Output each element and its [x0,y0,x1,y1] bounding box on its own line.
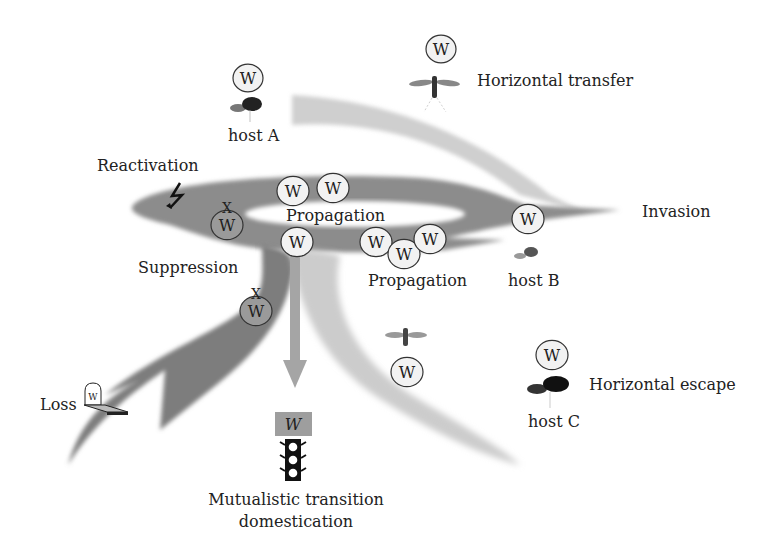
host-c-label: host C [528,414,580,430]
domestication-label: domestication [206,514,386,530]
w-symbol: W [396,245,413,264]
invasion-symbiont-bubble: W [512,204,544,233]
propagation-symbiont-1-bubble: W [360,227,392,256]
w-symbol: W [248,302,265,321]
reactivation-label: Reactivation [97,158,199,174]
transfer-symbiont-bubble: W [426,35,456,63]
invasion-label: Invasion [642,204,710,220]
w-symbol: W [285,182,302,201]
w-symbol: W [422,230,439,249]
w-symbol: W [219,216,236,235]
w-symbol: W [368,233,385,252]
host-a-symbiont-bubble: W [233,64,263,92]
loss-label: Loss [40,397,77,413]
w-symbol: W [289,233,306,252]
w-symbol: W [520,210,537,229]
escape-symbiont-bubble: W [391,357,423,386]
propagation-label-top: Propagation [286,208,385,224]
horizontal-transfer-label: Horizontal transfer [477,73,633,89]
suppressed-symbiont-bubble: WX [211,200,243,240]
suppression-label: Suppression [138,260,238,276]
mutualistic-transition-label: Mutualistic transition [206,492,386,508]
w-symbol: W [433,40,450,59]
w-symbol: W [399,363,416,382]
suppressed-branch-symbiont-bubble: WX [240,286,272,326]
wolbachia-diagram: W W [0,0,783,557]
w-symbol: W [544,346,561,365]
host-c-symbiont-bubble: W [536,340,568,369]
w-symbol: W [240,69,257,88]
suppression-x-mark: X [251,286,261,302]
ring-symbiont-2-bubble: W [317,173,349,202]
host-b-label: host B [508,273,559,289]
w-symbol: W [325,179,342,198]
propagation-symbiont-3-bubble: W [414,224,446,253]
horizontal-escape-label: Horizontal escape [589,377,736,393]
host-a-label: host A [228,128,279,144]
suppression-x-mark: X [222,200,232,216]
ring-symbiont-1-bubble: W [277,176,309,205]
propagation-label-bottom: Propagation [368,273,467,289]
ring-symbiont-3-bubble: W [281,227,313,256]
